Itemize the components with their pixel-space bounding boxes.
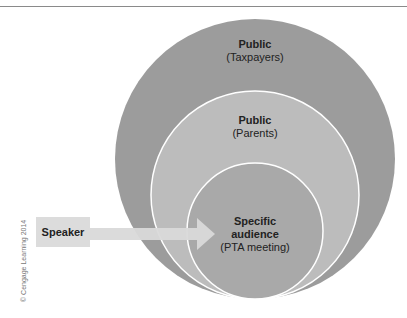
copyright-notice: © Cengage Learning 2014	[20, 220, 27, 302]
speaker-box: Speaker	[36, 217, 90, 247]
inner-circle-subtitle: (PTA meeting)	[220, 241, 290, 253]
middle-circle-title: Public	[185, 114, 325, 127]
middle-circle-label: Public (Parents)	[185, 114, 325, 140]
inner-circle-title-line1: Specific	[185, 215, 325, 228]
outer-circle-title: Public	[185, 38, 325, 51]
outer-circle-label: Public (Taxpayers)	[185, 38, 325, 64]
outer-circle-subtitle: (Taxpayers)	[226, 51, 283, 63]
diagram-canvas: Public (Taxpayers) Public (Parents) Spec…	[0, 0, 407, 318]
middle-circle-subtitle: (Parents)	[232, 127, 277, 139]
speaker-label: Speaker	[42, 226, 85, 238]
inner-circle-title-line2: audience	[185, 228, 325, 241]
inner-circle-label: Specific audience (PTA meeting)	[185, 215, 325, 254]
